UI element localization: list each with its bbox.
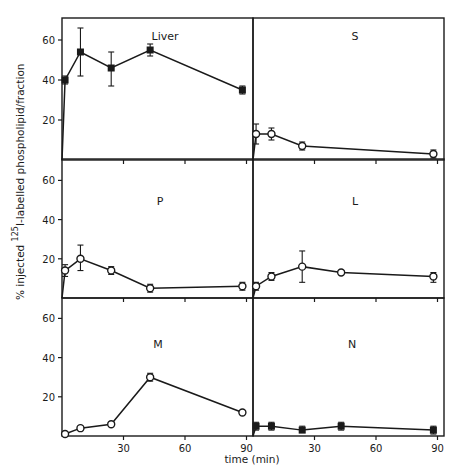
panel-label: S xyxy=(352,30,359,43)
data-point-marker xyxy=(239,283,246,290)
data-point-marker xyxy=(430,151,437,158)
data-point-marker xyxy=(299,143,306,150)
y-tick-label: 20 xyxy=(42,254,55,265)
y-axis-title-suffix: I-labelled phospholipid/fraction xyxy=(14,64,26,227)
panel-frame xyxy=(62,159,253,298)
multi-panel-line-chart: 204060LiverS204060PL306090204060M306090N… xyxy=(0,0,459,474)
data-point-marker xyxy=(268,273,275,280)
y-tick-label: 40 xyxy=(42,75,55,86)
panel-n: 306090N xyxy=(253,298,444,454)
data-point-marker xyxy=(147,47,154,54)
data-point-marker xyxy=(430,273,437,280)
panel-label: N xyxy=(348,338,356,351)
series-line xyxy=(62,50,242,160)
panel-frame xyxy=(253,298,444,436)
data-point-marker xyxy=(338,423,345,430)
y-tick-label: 60 xyxy=(42,35,55,46)
data-point-marker xyxy=(108,65,115,72)
panel-label: M xyxy=(153,338,163,351)
panel-label: L xyxy=(352,195,359,208)
data-point-marker xyxy=(253,131,260,138)
y-axis-title-prefix: % injected xyxy=(14,241,26,300)
data-point-marker xyxy=(77,255,84,262)
y-tick-label: 60 xyxy=(42,175,55,186)
panel-frame xyxy=(253,159,444,298)
data-point-marker xyxy=(108,421,115,428)
data-point-marker xyxy=(147,374,154,381)
panel-frame xyxy=(62,298,253,436)
panel-p: 204060P xyxy=(42,159,253,302)
x-tick-label: 90 xyxy=(431,443,444,454)
data-point-marker xyxy=(108,267,115,274)
data-point-marker xyxy=(338,269,345,276)
y-tick-label: 60 xyxy=(42,313,55,324)
data-point-marker xyxy=(77,49,84,56)
x-tick-label: 60 xyxy=(370,443,383,454)
panel-liver: 204060Liver xyxy=(42,18,253,164)
data-point-marker xyxy=(299,263,306,270)
data-point-marker xyxy=(77,425,84,432)
y-tick-label: 20 xyxy=(42,392,55,403)
data-point-marker xyxy=(239,409,246,416)
series-line xyxy=(62,377,242,436)
data-point-marker xyxy=(253,283,260,290)
data-point-marker xyxy=(430,427,437,434)
y-axis-title-superscript: 125 xyxy=(11,226,20,241)
data-point-marker xyxy=(268,423,275,430)
y-axis-title: % injected 125I-labelled phospholipid/fr… xyxy=(11,64,26,300)
y-tick-label: 20 xyxy=(42,115,55,126)
data-point-marker xyxy=(62,267,69,274)
x-tick-label: 30 xyxy=(308,443,321,454)
data-point-marker xyxy=(268,131,275,138)
panel-l: L xyxy=(253,159,444,302)
panels: 204060LiverS204060PL306090204060M306090N xyxy=(42,18,444,454)
data-point-marker xyxy=(62,77,69,84)
panel-label: Liver xyxy=(152,30,179,43)
panel-m: 306090204060M xyxy=(42,298,253,454)
y-tick-label: 40 xyxy=(42,353,55,364)
data-point-marker xyxy=(62,431,69,438)
x-tick-label: 60 xyxy=(179,443,192,454)
figure: 204060LiverS204060PL306090204060M306090N… xyxy=(0,0,459,474)
y-tick-label: 40 xyxy=(42,215,55,226)
data-point-marker xyxy=(299,427,306,434)
x-axis-title: time (min) xyxy=(224,453,279,465)
data-point-marker xyxy=(239,87,246,94)
data-point-marker xyxy=(253,423,260,430)
series-line xyxy=(253,134,433,160)
x-tick-label: 30 xyxy=(117,443,130,454)
panel-label: P xyxy=(157,195,164,208)
data-point-marker xyxy=(147,285,154,292)
panel-s: S xyxy=(253,18,444,164)
